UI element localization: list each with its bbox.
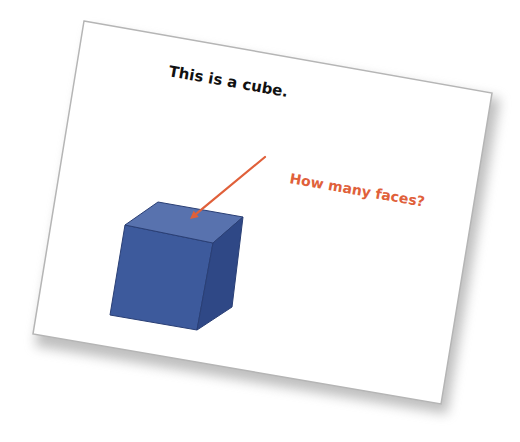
cube-illustration xyxy=(110,202,243,330)
cube-front-face xyxy=(110,225,213,330)
slide-photo-scene: This is a cube. How many faces? xyxy=(0,0,520,442)
